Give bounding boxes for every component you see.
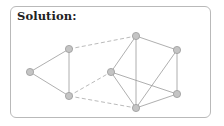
node-B <box>65 45 72 52</box>
edge-D-F <box>111 36 136 72</box>
edge-C-F-dashed <box>69 72 111 96</box>
node-A <box>26 68 33 75</box>
edge-A-C <box>30 72 69 96</box>
edge-G-H <box>136 94 177 108</box>
node-D <box>132 32 139 39</box>
node-E <box>173 46 180 53</box>
edge-C-H-dashed <box>69 96 136 108</box>
edges-layer <box>30 36 177 108</box>
graph-diagram <box>0 0 224 126</box>
edge-B-D-dashed <box>69 36 136 49</box>
node-C <box>65 92 72 99</box>
node-F <box>107 68 114 75</box>
edge-D-E <box>136 36 177 50</box>
edge-F-G <box>111 72 177 94</box>
node-H <box>132 104 139 111</box>
nodes-layer <box>26 32 180 111</box>
edge-F-H <box>111 72 136 108</box>
edge-A-B <box>30 49 69 72</box>
edge-E-H <box>136 50 177 108</box>
node-G <box>173 90 180 97</box>
